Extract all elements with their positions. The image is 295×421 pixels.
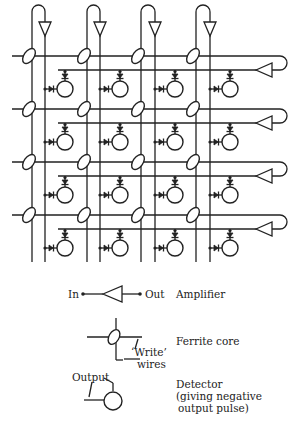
row-amplifier-icon [256,169,272,183]
junction-dot [173,123,176,126]
ferrite-core-icon [184,46,202,66]
diode-icon [62,180,68,184]
detector-description-1: Detector [176,378,223,390]
diode-icon [117,74,123,78]
diode-icon [214,139,218,145]
junction-dot [63,229,66,232]
junction-dot [153,87,156,90]
junction-dot [98,193,101,196]
diode-icon [117,127,123,131]
diode-icon [104,245,108,251]
diode-icon [159,192,163,198]
legend: In Out Amplifier ‘Write’ wires Ferrite [68,286,262,414]
diode-icon [214,192,218,198]
ferrite-core-icon [75,205,93,225]
ferrite-core-icon [20,99,38,119]
diode-icon [214,86,218,92]
detector-icon [112,134,128,150]
detector-icon [112,81,128,97]
detector-icon [222,134,238,150]
diode-icon [104,139,108,145]
diode-icon [117,180,123,184]
diode-icon [49,86,53,92]
ferrite-core-icon [129,99,147,119]
junction-dot [228,229,231,232]
diode-icon [172,74,178,78]
legend-ferrite-core: ‘Write’ wires Ferrite core [87,318,240,370]
detector-output-label: Output [72,371,110,383]
junction-dot [208,140,211,143]
row-amplifier-icon [256,222,272,236]
core-matrix [12,5,287,262]
ferrite-core-icon [184,205,202,225]
detector-icon [57,134,73,150]
amplifier-out-label: Out [145,288,165,300]
legend-detector: Output Detector (giving negative output … [72,371,262,414]
diode-icon [172,127,178,131]
junction-dot [153,140,156,143]
detector-icon [167,134,183,150]
diode-icon [227,74,233,78]
ferrite-memory-diagram: In Out Amplifier ‘Write’ wires Ferrite [0,0,295,421]
detector-icon [167,240,183,256]
amplifier-out-terminal [138,292,142,296]
junction-dot [43,87,46,90]
junction-dot [63,123,66,126]
output-pointer-left [89,382,92,397]
junction-dot [63,176,66,179]
detector-icon [167,81,183,97]
junction-dot [43,246,46,249]
amplifier-description: Amplifier [175,288,226,300]
junction-dot [43,193,46,196]
row-amplifier-icon [256,63,272,77]
detector-icon [222,240,238,256]
column-sense-loop [87,5,100,262]
ferrite-core-icon [75,152,93,172]
detector-description-3: output pulse) [178,402,249,414]
diode-icon [104,192,108,198]
ferrite-core-icon [129,152,147,172]
detector-icon [167,187,183,203]
detector-icon [57,81,73,97]
wires-label: wires [137,358,166,370]
detector-icon [57,187,73,203]
junction-dot [118,70,121,73]
column-amplifier-icon [94,22,106,36]
junction-dot [43,140,46,143]
diode-icon [227,127,233,131]
junction-dot [208,193,211,196]
diode-icon [159,139,163,145]
column-sense-loop [141,5,155,262]
junction-dot [153,193,156,196]
junction-dot [98,87,101,90]
junction-dot [63,70,66,73]
ferrite-core-icon [184,152,202,172]
junction-dot [173,70,176,73]
junction-dot [98,140,101,143]
diode-icon [227,180,233,184]
diode-icon [227,233,233,237]
column-sense-loop [32,5,45,262]
diode-icon [159,245,163,251]
detector-description-2: (giving negative [176,390,262,402]
diode-icon [49,192,53,198]
ferrite-core-icon [20,46,38,66]
ferrite-core-icon [184,99,202,119]
diode-icon [159,86,163,92]
column-amplifier-icon [149,22,161,36]
ferrite-core-icon [129,46,147,66]
detector-icon [222,187,238,203]
column-sense-loop [196,5,210,262]
junction-dot [208,87,211,90]
junction-dot [118,176,121,179]
junction-dot [153,246,156,249]
column-amplifier-icon [39,22,51,36]
column-amplifier-icon [204,22,216,36]
diode-icon [214,245,218,251]
junction-dot [228,70,231,73]
detector-icon [112,240,128,256]
junction-dot [118,123,121,126]
ferrite-core-icon [75,46,93,66]
row-drive-loop [12,162,287,176]
row-drive-loop [12,56,287,70]
